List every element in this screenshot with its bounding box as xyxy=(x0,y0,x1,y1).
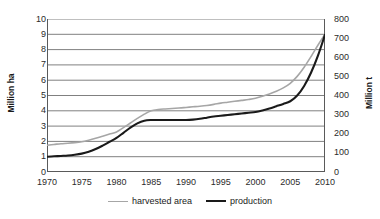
y-axis-left-tick-label: 4 xyxy=(41,106,46,115)
y-axis-right-tick-label: 400 xyxy=(334,91,349,100)
x-axis-tick-label: 1985 xyxy=(134,178,168,187)
y-axis-right-tick-label: 200 xyxy=(334,129,349,138)
x-axis-tick-label: 2000 xyxy=(239,178,273,187)
y-axis-left-tick-label: 6 xyxy=(41,76,46,85)
y-axis-right-tick-label: 500 xyxy=(334,72,349,81)
x-axis-tick-label: 1995 xyxy=(204,178,238,187)
y-axis-left-tick-label: 1 xyxy=(41,152,46,161)
y-axis-right-tick-label: 700 xyxy=(334,34,349,43)
y-axis-left-tick-label: 9 xyxy=(41,30,46,39)
chart-legend: harvested area production xyxy=(0,196,380,206)
x-axis-tick-label: 2010 xyxy=(308,178,342,187)
plot-svg xyxy=(47,19,325,172)
chart-container: Million ha Million t 109876543210 800700… xyxy=(0,0,380,219)
x-axis-tick-label: 1975 xyxy=(65,178,99,187)
y-axis-left-tick-label: 5 xyxy=(41,91,46,100)
x-axis-tick-label: 2005 xyxy=(273,178,307,187)
y-axis-right-title: Million t xyxy=(364,63,374,123)
legend-item-production: production xyxy=(206,196,272,206)
y-axis-left-tick-label: 8 xyxy=(41,45,46,54)
legend-label-production: production xyxy=(230,196,272,206)
y-axis-left-tick-label: 10 xyxy=(36,15,46,24)
y-axis-left-tick-label: 2 xyxy=(41,137,46,146)
legend-item-harvested-area: harvested area xyxy=(108,196,192,206)
y-axis-right-tick-label: 600 xyxy=(334,53,349,62)
legend-swatch-production xyxy=(206,200,226,202)
y-axis-right-tick-label: 100 xyxy=(334,148,349,157)
plot-area xyxy=(47,19,325,172)
legend-label-harvested-area: harvested area xyxy=(132,196,192,206)
legend-swatch-harvested-area xyxy=(108,201,128,202)
y-axis-left-tick-label: 0 xyxy=(41,168,46,177)
y-axis-right-tick-label: 0 xyxy=(334,168,339,177)
series-line-harvested-area xyxy=(47,34,325,145)
y-axis-left-title: Million ha xyxy=(6,63,16,123)
y-axis-left-tick-label: 3 xyxy=(41,122,46,131)
y-axis-right-tick-label: 300 xyxy=(334,110,349,119)
x-axis-tick-label: 1980 xyxy=(100,178,134,187)
x-axis-tick-label: 1990 xyxy=(169,178,203,187)
y-axis-right-tick-label: 800 xyxy=(334,15,349,24)
x-axis-tick-label: 1970 xyxy=(30,178,64,187)
y-axis-left-tick-label: 7 xyxy=(41,60,46,69)
